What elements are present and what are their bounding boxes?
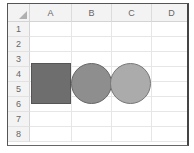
cell[interactable] <box>72 37 112 52</box>
cell[interactable] <box>72 112 112 127</box>
row-header-4[interactable]: 4 <box>8 67 30 82</box>
rectangle-shape[interactable] <box>31 63 71 104</box>
cell[interactable] <box>112 112 152 127</box>
circle-shape-2[interactable] <box>110 63 151 104</box>
cell[interactable] <box>152 97 189 112</box>
row-header-7[interactable]: 7 <box>8 112 30 127</box>
row-header-1[interactable]: 1 <box>8 22 30 37</box>
cell[interactable] <box>112 37 152 52</box>
cell[interactable] <box>152 52 189 67</box>
cell[interactable] <box>112 127 152 142</box>
circle-shape-1[interactable] <box>71 63 112 104</box>
cell[interactable] <box>152 112 189 127</box>
row-header-2[interactable]: 2 <box>8 37 30 52</box>
cell[interactable] <box>72 127 112 142</box>
column-header-d[interactable]: D <box>152 4 189 22</box>
cell[interactable] <box>152 127 189 142</box>
select-all-triangle-icon <box>19 11 27 19</box>
column-header-a[interactable]: A <box>30 4 72 22</box>
spreadsheet-grid: A B C D 1 2 3 4 5 6 7 8 <box>7 3 189 146</box>
row-header-8[interactable]: 8 <box>8 127 30 142</box>
row-header-3[interactable]: 3 <box>8 52 30 67</box>
cell[interactable] <box>30 127 72 142</box>
row-header-5[interactable]: 5 <box>8 82 30 97</box>
cell[interactable] <box>72 22 112 37</box>
cell[interactable] <box>152 67 189 82</box>
row-header-6[interactable]: 6 <box>8 97 30 112</box>
select-all-button[interactable] <box>8 4 30 22</box>
column-header-c[interactable]: C <box>112 4 152 22</box>
cell[interactable] <box>30 37 72 52</box>
cell[interactable] <box>152 37 189 52</box>
cell[interactable] <box>30 22 72 37</box>
cell[interactable] <box>152 82 189 97</box>
cell[interactable] <box>152 22 189 37</box>
cell[interactable] <box>30 112 72 127</box>
cell[interactable] <box>112 22 152 37</box>
column-header-b[interactable]: B <box>72 4 112 22</box>
